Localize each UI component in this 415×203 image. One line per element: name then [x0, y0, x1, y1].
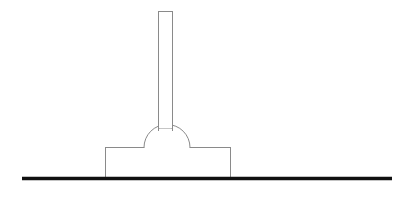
- diagram-svg: Line drawing of a post mounted on a dome…: [0, 0, 415, 203]
- rod-interior-mask: [159, 125, 172, 129]
- base-block: [106, 148, 231, 179]
- vertical-rod: [159, 12, 173, 129]
- drawing-canvas: Line drawing of a post mounted on a dome…: [0, 0, 415, 203]
